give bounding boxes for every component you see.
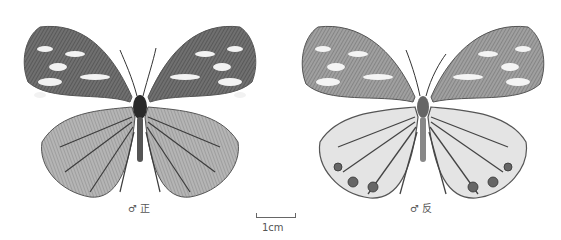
- scale-bar-label: 1cm: [262, 222, 284, 233]
- butterfly-dorsal-illustration: [20, 22, 260, 202]
- butterfly-ventral-illustration: [298, 22, 548, 202]
- scale-bar: [256, 213, 296, 218]
- dorsal-caption: ♂ 正: [128, 200, 150, 215]
- ventral-caption: ♂ 反: [410, 200, 432, 215]
